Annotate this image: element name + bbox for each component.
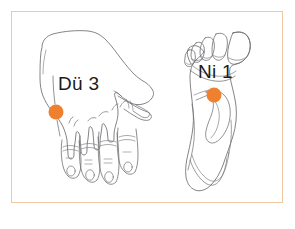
foot-heel-inner [190, 158, 227, 185]
knuckle-mark-1 [69, 117, 73, 123]
toe-little-crease [186, 63, 193, 65]
finger-ring-joint-a [81, 144, 97, 146]
hand-outline [40, 31, 154, 159]
toe-second-crease [213, 55, 225, 57]
finger-ring [79, 136, 100, 182]
finger-index-outline [117, 128, 138, 174]
hand-tendon-line-lower [57, 120, 60, 136]
finger-middle-joint-b [100, 145, 116, 147]
thumb [114, 91, 151, 120]
finger-ring-outline [79, 136, 100, 182]
toe-big-pad-crease [229, 58, 245, 60]
foot-illustration [185, 32, 251, 191]
finger-little-nail [67, 166, 75, 176]
finger-index-nail [124, 162, 132, 172]
knuckle-mark-3 [88, 118, 96, 121]
toe-big-outline [228, 32, 251, 64]
point-marker-du3 [49, 105, 64, 120]
figure-line-art [0, 0, 295, 229]
knuckle-mark-2 [74, 120, 78, 126]
finger-index-joint-a [119, 136, 135, 138]
toe-little-outline [185, 50, 196, 67]
hand-tendon-line [53, 76, 55, 104]
knuckle-mark-6 [120, 101, 126, 107]
finger-middle-nail [105, 172, 114, 183]
finger-little-joint-b [63, 150, 78, 152]
acupuncture-figure: Dü 3 Ni 1 [0, 0, 295, 229]
toe-little [185, 50, 196, 67]
toe-big [228, 32, 251, 64]
foot-hollow-inner-line [211, 100, 219, 138]
finger-index [117, 128, 138, 174]
wrist-crease [43, 50, 46, 74]
finger-middle [98, 132, 119, 184]
finger-index-joint-b [119, 140, 135, 142]
point-marker-ni1 [207, 88, 222, 103]
knuckle-mark-4 [99, 112, 108, 116]
finger-middle-outline [98, 132, 119, 184]
foot-heel-inner-2 [192, 152, 229, 181]
finger-little-joint-a [63, 146, 78, 148]
finger-ring-nail [86, 170, 95, 180]
thumb-outline [118, 96, 151, 120]
